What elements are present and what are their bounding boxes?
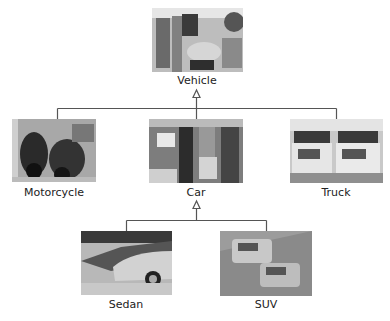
car-image	[149, 119, 243, 183]
car-label: Car	[136, 186, 256, 199]
truck-label: Truck	[276, 186, 390, 199]
truck-image	[290, 119, 383, 183]
vehicle-label: Vehicle	[137, 74, 257, 87]
vehicle-image	[152, 8, 243, 72]
sedan-label: Sedan	[66, 298, 186, 311]
suv-label: SUV	[206, 298, 326, 311]
suv-image	[220, 231, 312, 296]
motorcycle-label: Motorcycle	[0, 186, 114, 199]
motorcycle-image	[12, 119, 96, 182]
sedan-image	[81, 231, 172, 295]
